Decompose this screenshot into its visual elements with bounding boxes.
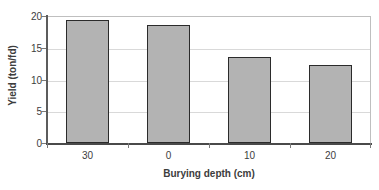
bar [228, 57, 270, 143]
x-tick-mark [47, 143, 48, 148]
x-tick-label: 20 [325, 150, 336, 161]
x-tick-mark [370, 143, 371, 148]
bar [309, 65, 351, 143]
y-axis-title-text: Yield (ton/fd) [7, 45, 18, 106]
x-tick-label: 10 [244, 150, 255, 161]
x-tick-label: 30 [82, 150, 93, 161]
x-tick-mark [290, 143, 291, 148]
bar [147, 25, 189, 143]
x-axis-tick-marks [47, 143, 371, 149]
y-axis-tick-labels: 05101520 [20, 16, 42, 143]
x-tick-label: 0 [166, 150, 172, 161]
y-axis-line [46, 15, 48, 144]
x-axis-tick-labels: 3001020 [47, 150, 371, 166]
x-tick-mark [128, 143, 129, 148]
bar [66, 20, 108, 143]
bar-chart-figure: Yield (ton/fd) 05101520 3001020 Burying … [0, 0, 379, 190]
plot-area [47, 16, 371, 143]
x-axis-title: Burying depth (cm) [47, 168, 371, 179]
x-tick-mark [209, 143, 210, 148]
